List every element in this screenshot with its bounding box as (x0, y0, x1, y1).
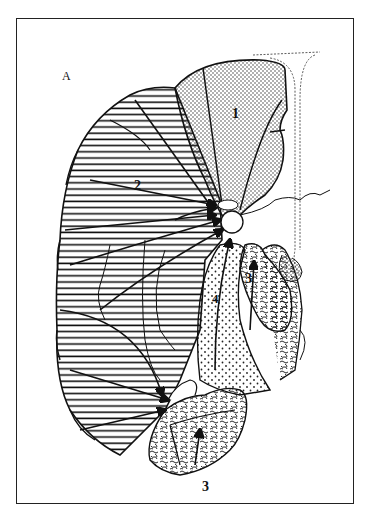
nucleus (221, 211, 243, 233)
region-3b-label: 3 (202, 479, 209, 494)
panel-label: A (62, 69, 71, 83)
cerebellum-diagram: A 1 2 3 3 4 (0, 0, 372, 525)
region-1-label: 1 (232, 106, 239, 121)
region-4-label: 4 (212, 291, 219, 306)
region-3a-label: 3 (245, 271, 252, 286)
region-2-label: 2 (134, 178, 141, 193)
